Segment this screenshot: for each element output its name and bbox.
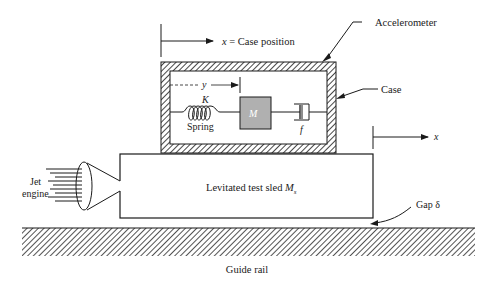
svg-text:x: x xyxy=(433,131,439,142)
accelerometer-callout: Accelerometer xyxy=(322,17,437,62)
gap-label: Gap δ xyxy=(416,199,440,210)
case-callout: Case xyxy=(336,84,402,99)
spring-label: Spring xyxy=(187,121,214,132)
guide-rail-label: Guide rail xyxy=(226,264,268,275)
accelerometer-label: Accelerometer xyxy=(375,17,437,28)
case-label: Case xyxy=(381,84,402,95)
test-sled: Levitated test sled Ms xyxy=(120,154,373,218)
spring-constant-label: K xyxy=(201,94,210,105)
engine-label: engine xyxy=(22,188,49,199)
svg-text:y: y xyxy=(201,79,207,90)
jet-engine: Jet engine xyxy=(22,162,122,210)
jet-label: Jet xyxy=(30,176,41,187)
sled-position-indicator: x xyxy=(373,126,439,149)
guide-rail: Guide rail xyxy=(22,228,475,275)
accelerometer-sled-diagram: x = Case position Accelerometer Case y K… xyxy=(0,0,495,283)
case-position-label: x = Case position xyxy=(221,36,295,47)
proof-mass: M xyxy=(240,97,271,129)
mass-label: M xyxy=(248,108,258,119)
case-position-indicator: x = Case position xyxy=(161,24,295,57)
gap-callout: Gap δ xyxy=(370,199,440,226)
